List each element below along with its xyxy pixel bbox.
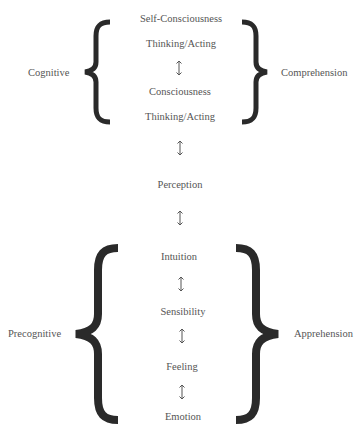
up-down-arrow-icon	[178, 384, 186, 400]
node-intuition: Intuition	[161, 251, 197, 262]
left-brace-precognitive	[72, 244, 120, 424]
node-self-consciousness: Self-Consciousness	[140, 13, 222, 24]
right-brace-apprehension	[234, 244, 282, 424]
up-down-arrow-icon	[178, 328, 186, 344]
right-brace-comprehension	[240, 20, 270, 124]
label-comprehension: Comprehension	[281, 67, 348, 78]
node-sensibility: Sensibility	[161, 306, 206, 317]
node-thinking-acting-1: Thinking/Acting	[146, 38, 216, 49]
node-consciousness: Consciousness	[149, 86, 211, 97]
label-precognitive: Precognitive	[8, 328, 61, 339]
up-down-arrow-icon	[176, 210, 184, 226]
label-cognitive: Cognitive	[28, 67, 69, 78]
up-down-arrow-icon	[177, 276, 185, 292]
up-down-arrow-icon	[175, 60, 183, 76]
up-down-arrow-icon	[176, 140, 184, 156]
node-emotion: Emotion	[165, 411, 201, 422]
node-perception: Perception	[158, 179, 203, 190]
node-thinking-acting-2: Thinking/Acting	[145, 111, 215, 122]
label-apprehension: Apprehension	[294, 328, 353, 339]
node-feeling: Feeling	[166, 361, 198, 372]
left-brace-cognitive	[82, 20, 112, 124]
